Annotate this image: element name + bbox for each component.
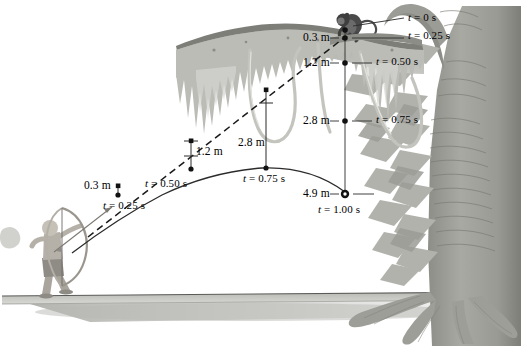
fall-time-100-value: 1.00 [333, 203, 353, 215]
fall-distance-050: 1.2 m [303, 57, 330, 69]
traj-time-075: t = 0.75 s [243, 173, 285, 184]
fall-time-050-eq: = [379, 55, 391, 67]
traj-time-050-value: 0.50 [160, 177, 180, 189]
traj-time-025-unit: s [138, 199, 145, 211]
physics-figure: 0.3 m t = 0.25 s 1.2 m t = 0.50 s 2.8 m … [0, 0, 523, 346]
fall-time-100-unit: s [353, 203, 360, 215]
label-leaders [330, 18, 404, 194]
fall-time-0-unit: s [429, 11, 436, 23]
fall-time-025-eq: = [411, 29, 423, 41]
traj-time-075-eq: = [246, 172, 258, 184]
traj-time-050-eq: = [148, 177, 160, 189]
fall-time-050-value: 0.50 [391, 55, 411, 67]
fall-time-075-value: 0.75 [391, 113, 411, 125]
fall-distance-075: 2.8 m [303, 115, 330, 127]
fall-distance-100: 4.9 m [303, 188, 330, 200]
trajectory-dot-050 [188, 166, 193, 171]
fall-time-100: t = 1.00 s [318, 204, 360, 215]
traj-time-050: t = 0.50 s [145, 178, 187, 189]
fall-time-025-value: 0.25 [423, 29, 443, 41]
leader-0 [353, 18, 404, 26]
aimline-dot-075 [264, 88, 269, 93]
fall-dot-0 [342, 27, 348, 33]
fall-time-050-unit: s [411, 55, 418, 67]
fall-dot-100-inner [343, 192, 346, 195]
fall-time-075: t = 0.75 s [376, 114, 418, 125]
fall-time-100-eq: = [321, 203, 333, 215]
fall-dot-075 [342, 118, 348, 124]
traj-distance-075: 2.8 m [238, 137, 265, 149]
traj-time-025-eq: = [106, 199, 118, 211]
fall-time-0-eq: = [411, 11, 423, 23]
trajectory-dot-025 [115, 192, 120, 197]
fall-time-050: t = 0.50 s [376, 56, 418, 67]
fall-dot-050 [342, 60, 348, 66]
traj-time-025-value: 0.25 [118, 199, 138, 211]
fall-dot-025 [342, 35, 348, 41]
traj-time-025: t = 0.25 s [103, 200, 145, 211]
fall-distance-025: 0.3 m [303, 32, 330, 44]
traj-time-075-value: 0.75 [258, 172, 278, 184]
fall-time-075-eq: = [379, 113, 391, 125]
traj-distance-025: 0.3 m [84, 180, 111, 192]
aimline-dot-050 [189, 139, 194, 144]
fall-time-025: t = 0.25 s [408, 30, 450, 41]
traj-time-050-unit: s [180, 177, 187, 189]
fall-time-075-unit: s [411, 113, 418, 125]
trajectory-dot-075 [263, 165, 268, 170]
fall-time-0: t = 0 s [408, 12, 436, 23]
fall-time-025-unit: s [443, 29, 450, 41]
traj-distance-050: 1.2 m [196, 146, 223, 158]
aimline-dot-025 [116, 184, 121, 189]
traj-time-075-unit: s [278, 172, 285, 184]
